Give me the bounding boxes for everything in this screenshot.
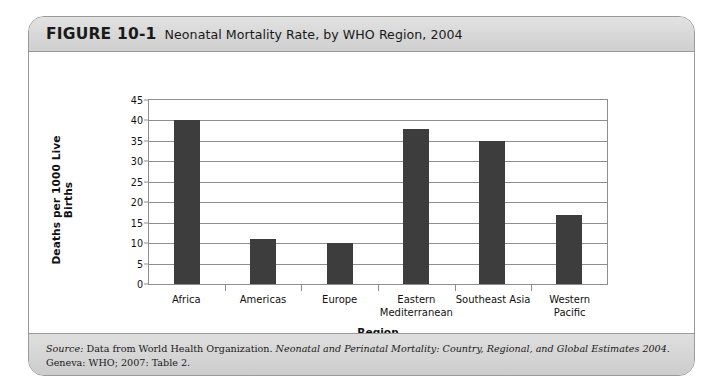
x-tick-mark [301,285,302,291]
bar-slot [149,100,225,284]
x-axis-category-label: Western Pacific [531,293,608,319]
y-tick-label: 5 [137,258,143,269]
x-tick-mark [225,285,226,291]
figure-header: FIGURE 10-1 Neonatal Mortality Rate, by … [29,17,694,52]
bar [556,215,582,285]
x-axis-category-label: Southeast Asia [455,293,532,319]
x-axis-ticks [148,285,608,291]
x-tick-mark [531,285,532,291]
y-tick-label: 15 [131,217,143,228]
x-axis-category-label: Europe [301,293,378,319]
figure-title: Neonatal Mortality Rate, by WHO Region, … [165,27,463,42]
y-tick-label: 40 [131,115,143,126]
y-tick-label: 10 [131,238,143,249]
bar [250,239,276,284]
x-axis-category-label: Americas [225,293,302,319]
source-note: Source: Data from World Health Organizat… [46,342,678,369]
bar [479,141,505,284]
figure-box: FIGURE 10-1 Neonatal Mortality Rate, by … [28,16,695,376]
y-tick-label: 0 [137,279,143,290]
chart-area: Deaths per 1000 Live Births 051015202530… [29,52,694,335]
y-tick-label: 45 [131,95,143,106]
figure-number: FIGURE 10-1 [46,25,157,43]
x-axis-labels: AfricaAmericasEuropeEastern Mediterranea… [148,293,608,319]
x-axis-category-label: Africa [148,293,225,319]
bar-slot [378,100,454,284]
source-text-before: Data from World Health Organization. [83,343,275,354]
bar [327,243,353,284]
source-publication-title: Neonatal and Perinatal Mortality: Countr… [276,343,667,354]
y-tick-label: 20 [131,197,143,208]
bar-slot [225,100,301,284]
bar [174,120,200,284]
plot-frame: 051015202530354045 [148,99,608,285]
bar-slot [531,100,607,284]
x-tick-mark [455,285,456,291]
y-tick-label: 25 [131,176,143,187]
y-axis-title: Deaths per 1000 Live Births [50,120,74,280]
source-label: Source: [46,343,83,354]
x-axis-category-label: Eastern Mediterranean [378,293,455,319]
x-tick-mark [378,285,379,291]
figure-footer: Source: Data from World Health Organizat… [29,333,694,375]
y-tick-label: 35 [131,135,143,146]
y-tick-label: 30 [131,156,143,167]
bars-layer [149,100,607,284]
bar-slot [454,100,530,284]
bar-slot [302,100,378,284]
bar [403,129,429,284]
